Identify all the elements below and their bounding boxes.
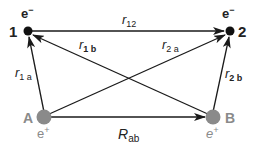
label-r2a: r2 a [162,37,179,54]
label-r12: r12 [122,12,136,29]
electron-2-number: 2 [238,23,246,40]
electron-1-number: 1 [9,23,17,40]
label-r1b: r1 b [79,37,97,54]
label-r1a: r1 a [15,65,32,82]
r2a-arrow [47,35,225,115]
distance-diagram: 1 e− 2 e− A e+ B e+ r12 r1 b r2 a r1 a r… [0,0,261,150]
positron-a-charge: e+ [37,125,50,141]
electron-1-charge: e− [21,5,34,21]
electron-1-dot [24,27,33,36]
label-rab: Rab [118,126,140,144]
electron-2-dot [226,27,235,36]
positron-b-dot [206,110,221,125]
positron-b-charge: e+ [206,125,219,141]
positron-a-dot [37,110,52,125]
electron-2-charge: e− [222,5,235,21]
positron-b-letter: B [225,110,235,126]
r1b-arrow [33,35,210,115]
positron-a-letter: A [23,110,33,126]
label-r2b: r2 b [225,66,243,83]
